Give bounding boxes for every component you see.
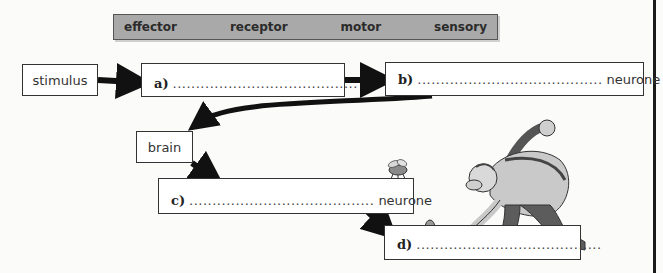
suffix-b: neurone	[607, 72, 661, 87]
label-a: a)	[154, 76, 169, 91]
stimulus-box: stimulus	[22, 64, 98, 96]
brain-label: brain	[148, 140, 181, 155]
answer-box-d[interactable]: d) .....................................…	[384, 225, 581, 260]
arrow-brain-to-c	[192, 163, 210, 176]
blank-b[interactable]: ........................................	[417, 72, 602, 87]
arrow-c-to-d	[368, 212, 385, 228]
blank-d[interactable]: ........................................	[416, 237, 601, 252]
answer-box-c[interactable]: c) .....................................…	[158, 178, 414, 214]
brain-box: brain	[136, 131, 193, 163]
blank-a[interactable]: ........................................	[173, 76, 358, 91]
arrow-stimulus-to-a	[98, 80, 134, 82]
label-b: b)	[398, 72, 413, 87]
arrow-b-to-brain	[200, 96, 432, 122]
label-d: d)	[397, 237, 412, 252]
stimulus-label: stimulus	[32, 73, 87, 88]
fly-icon	[387, 158, 407, 180]
blank-c[interactable]: ........................................	[189, 193, 374, 208]
suffix-c: neurone	[378, 193, 432, 208]
answer-box-a[interactable]: a) .....................................…	[141, 63, 345, 97]
label-c: c)	[171, 193, 185, 208]
answer-box-b[interactable]: b) .....................................…	[385, 62, 644, 96]
